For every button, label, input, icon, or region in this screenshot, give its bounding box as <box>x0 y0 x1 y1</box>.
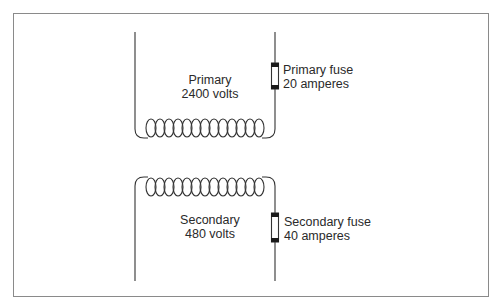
primary-left-lead <box>135 32 148 138</box>
secondary-voltage: 480 volts <box>170 227 250 241</box>
primary-fuse-icon <box>271 63 279 89</box>
secondary-name: Secondary <box>170 213 250 227</box>
secondary-label: Secondary 480 volts <box>170 213 250 241</box>
primary-fuse-rating: 20 amperes <box>283 77 353 91</box>
transformer-diagram <box>0 0 501 308</box>
secondary-fuse-rating: 40 amperes <box>284 229 371 243</box>
primary-voltage: 2400 volts <box>175 87 245 101</box>
secondary-fuse-name: Secondary fuse <box>284 215 371 229</box>
secondary-fuse-label: Secondary fuse 40 amperes <box>284 215 371 243</box>
primary-fuse-label: Primary fuse 20 amperes <box>283 63 353 91</box>
primary-name: Primary <box>175 73 245 87</box>
secondary-left-lead <box>135 177 148 281</box>
secondary-fuse-icon <box>271 213 279 242</box>
primary-fuse-name: Primary fuse <box>283 63 353 77</box>
primary-coil-icon <box>146 119 264 137</box>
secondary-coil-icon <box>146 178 264 196</box>
primary-label: Primary 2400 volts <box>175 73 245 101</box>
